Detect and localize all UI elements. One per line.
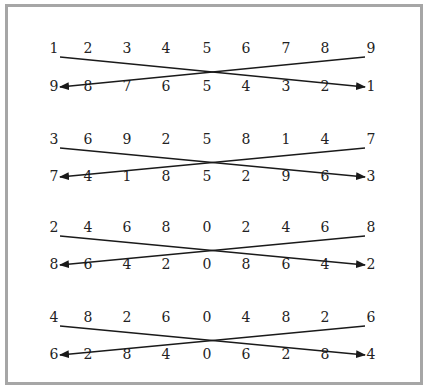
top-row-number: 2 [123, 309, 132, 325]
top-row-number: 6 [123, 219, 132, 235]
top-row-number: 4 [242, 309, 251, 325]
crossed-arrows-diagram: 1234567899876543213692581477418529632468… [0, 0, 429, 390]
bottom-row-number: 6 [50, 346, 59, 362]
top-row-number: 8 [242, 131, 251, 147]
bottom-row-number: 8 [162, 168, 171, 184]
bottom-row-number: 8 [242, 256, 251, 272]
top-row-number: 7 [367, 131, 376, 147]
bottom-row-number: 4 [242, 78, 251, 94]
top-row-number: 4 [50, 309, 59, 325]
top-row-number: 2 [84, 40, 93, 56]
top-row-number: 0 [203, 219, 212, 235]
bottom-row-number: 6 [321, 168, 330, 184]
top-row-number: 4 [84, 219, 93, 235]
bottom-row-number: 3 [282, 78, 291, 94]
number-group-3: 246802468864208642 [50, 219, 376, 272]
bottom-row-number: 6 [84, 256, 93, 272]
number-groups: 1234567899876543213692581477418529632468… [50, 40, 376, 362]
top-row-number: 4 [162, 40, 171, 56]
top-row-number: 2 [321, 309, 330, 325]
bottom-row-number: 8 [84, 78, 93, 94]
bottom-row-number: 6 [162, 78, 171, 94]
bottom-row-number: 4 [321, 256, 330, 272]
bottom-row-number: 5 [203, 168, 212, 184]
bottom-row-number: 8 [50, 256, 59, 272]
top-row-number: 9 [123, 131, 132, 147]
top-row-number: 6 [84, 131, 93, 147]
top-row-number: 6 [242, 40, 251, 56]
bottom-row-number: 9 [50, 78, 59, 94]
bottom-row-number: 2 [84, 346, 93, 362]
bottom-row-number: 4 [162, 346, 171, 362]
top-row-number: 2 [162, 131, 171, 147]
bottom-row-number: 6 [242, 346, 251, 362]
top-row-number: 8 [367, 219, 376, 235]
top-row-number: 6 [367, 309, 376, 325]
bottom-row-number: 8 [321, 346, 330, 362]
bottom-row-number: 2 [367, 256, 376, 272]
bottom-row-number: 2 [242, 168, 251, 184]
top-row-number: 6 [162, 309, 171, 325]
bottom-row-number: 3 [367, 168, 376, 184]
top-row-number: 2 [50, 219, 59, 235]
top-row-number: 6 [321, 219, 330, 235]
top-row-number: 3 [123, 40, 132, 56]
bottom-row-number: 2 [162, 256, 171, 272]
top-row-number: 2 [242, 219, 251, 235]
bottom-row-number: 4 [367, 346, 376, 362]
top-row-number: 8 [162, 219, 171, 235]
bottom-row-number: 4 [84, 168, 93, 184]
bottom-row-number: 0 [203, 346, 212, 362]
top-row-number: 5 [203, 131, 212, 147]
top-row-number: 1 [282, 131, 291, 147]
bottom-row-number: 5 [203, 78, 212, 94]
top-row-number: 9 [367, 40, 376, 56]
top-row-number: 4 [282, 219, 291, 235]
number-group-2: 369258147741852963 [50, 131, 376, 184]
top-row-number: 1 [50, 40, 59, 56]
top-row-number: 4 [321, 131, 330, 147]
bottom-row-number: 0 [203, 256, 212, 272]
top-row-number: 5 [203, 40, 212, 56]
top-row-number: 7 [282, 40, 291, 56]
bottom-row-number: 7 [50, 168, 59, 184]
bottom-row-number: 2 [321, 78, 330, 94]
top-row-number: 8 [321, 40, 330, 56]
top-row-number: 8 [84, 309, 93, 325]
number-group-1: 123456789987654321 [50, 40, 376, 94]
top-row-number: 8 [282, 309, 291, 325]
top-row-number: 0 [203, 309, 212, 325]
bottom-row-number: 1 [367, 78, 376, 94]
top-row-number: 3 [50, 131, 59, 147]
number-group-4: 482604826628406284 [50, 309, 376, 362]
